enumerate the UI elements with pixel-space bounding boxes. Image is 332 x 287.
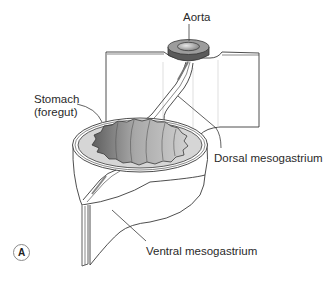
label-dorsal-mesogastrium: Dorsal mesogastrium xyxy=(214,152,323,165)
label-stomach: Stomach xyxy=(34,93,79,106)
label-ventral-mesogastrium: Ventral mesogastrium xyxy=(146,245,257,258)
label-aorta: Aorta xyxy=(183,11,211,24)
aorta xyxy=(168,40,209,62)
stomach-mesogastrium-diagram xyxy=(0,0,332,287)
panel-label-badge: A xyxy=(13,244,30,261)
label-foregut: (foregut) xyxy=(34,106,77,119)
